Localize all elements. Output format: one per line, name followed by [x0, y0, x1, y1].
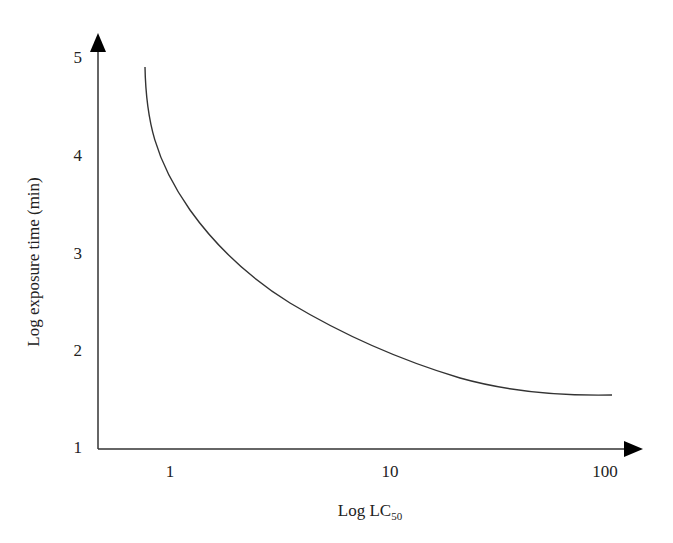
y-tick-3: 3	[52, 245, 82, 262]
x-axis-label-main: Log LC	[338, 501, 391, 520]
y-tick-5: 5	[52, 49, 82, 66]
chart-canvas	[0, 0, 673, 543]
y-tick-4: 4	[52, 147, 82, 164]
x-axis-label-subscript: 50	[391, 510, 402, 522]
y-axis-label: Log exposure time (min)	[25, 177, 42, 347]
x-axis-label: Log LC50	[338, 502, 402, 522]
y-tick-2: 2	[52, 342, 82, 359]
x-tick-100: 100	[592, 463, 618, 480]
x-tick-1: 1	[166, 463, 175, 480]
x-tick-10: 10	[382, 463, 399, 480]
data-curve	[145, 67, 612, 395]
y-tick-1: 1	[52, 439, 82, 456]
y-axis-arrow-icon	[90, 33, 106, 52]
x-axis-arrow-icon	[624, 441, 643, 457]
